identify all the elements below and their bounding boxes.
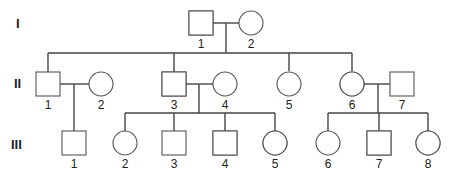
individual-number: 7 [399,98,406,112]
female-circle-icon [113,131,137,155]
generation-labels: I II III [11,16,22,152]
individual-ii-6: 6 [340,72,364,112]
individual-number: 1 [45,98,52,112]
outline [416,131,440,155]
individual-ii-4: 4 [213,72,237,112]
individual-ii-2: 2 [89,72,113,112]
individual-number: 2 [98,98,105,112]
individual-iii-7: 7 [367,131,391,171]
outline [263,131,287,155]
generation-label-3: III [11,137,22,152]
individual-iii-1: 1 [62,131,86,171]
individual-ii-7: 7 [390,72,414,112]
individual-iii-4: 4 [213,131,237,171]
individual-number: 2 [122,157,129,171]
male-square-icon [62,131,86,155]
individual-number: 3 [171,98,178,112]
individual-iii-5: 5 [263,131,287,171]
individual-number: 1 [71,157,78,171]
generation-label-2: II [14,76,21,91]
outline [213,131,237,155]
pedigree-chart: I II III 12123456712345678 [0,0,456,179]
individual-iii-6: 6 [316,131,340,171]
individual-number: 2 [248,37,255,51]
female-circle-icon [277,72,301,96]
individual-number: 5 [286,98,293,112]
individual-number: 4 [222,98,229,112]
male-square-icon [162,131,186,155]
individual-number: 8 [425,157,432,171]
individual-iii-2: 2 [113,131,137,171]
individual-number: 7 [376,157,383,171]
outline [162,72,186,96]
individual-i-2: 2 [239,11,263,51]
generation-label-1: I [16,16,20,31]
outline [367,131,391,155]
outline [340,72,364,96]
individual-iii-8: 8 [416,131,440,171]
individual-i-1: 1 [189,11,213,51]
individual-number: 6 [325,157,332,171]
female-circle-icon [213,72,237,96]
individuals: 12123456712345678 [36,11,440,171]
female-circle-icon [89,72,113,96]
individual-ii-5: 5 [277,72,301,112]
male-square-icon [36,72,60,96]
outline [189,11,213,35]
female-circle-icon [239,11,263,35]
individual-ii-3: 3 [162,72,186,112]
individual-ii-1: 1 [36,72,60,112]
individual-number: 3 [171,157,178,171]
female-circle-icon [316,131,340,155]
individual-number: 1 [198,37,205,51]
individual-number: 6 [349,98,356,112]
individual-number: 5 [272,157,279,171]
individual-iii-3: 3 [162,131,186,171]
male-square-icon [390,72,414,96]
individual-number: 4 [222,157,229,171]
